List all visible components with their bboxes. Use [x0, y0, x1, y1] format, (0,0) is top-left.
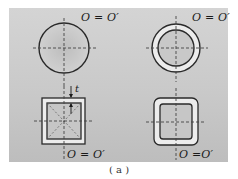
- solid-circle-label: O = O′: [81, 11, 119, 24]
- thickness-label: t: [75, 83, 79, 94]
- hollow-square-label: O = O′: [67, 148, 105, 161]
- hollow-rounded-square-label: O =O′: [179, 148, 213, 161]
- solid-circle-section: [33, 18, 97, 86]
- hollow-circle-label: O = O′: [192, 11, 230, 24]
- hollow-circle-section: [146, 16, 208, 82]
- figure-caption: ( a ): [0, 164, 238, 175]
